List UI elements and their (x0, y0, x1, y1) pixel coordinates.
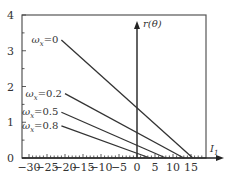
y-tick-label: 2 (7, 81, 14, 94)
chart: −30−25−20−15−10−5051015 01234 ωx=0ωx=0.2… (0, 0, 231, 181)
y-axis-arrow-icon (134, 21, 140, 29)
series-lines (61, 40, 192, 158)
series-labels: ωx=0ωx=0.2ωx=0.5ωx=0.8 (22, 34, 62, 134)
x-tick-label: 15 (184, 161, 198, 174)
y-axis-title: r(θ) (143, 18, 162, 29)
x-tick-label: 5 (152, 161, 159, 174)
x-tick-label: −5 (111, 161, 127, 174)
series-label: ωx=0.5 (22, 106, 58, 120)
y-tick-label: 1 (7, 116, 14, 129)
x-axis-title: I1 (209, 143, 218, 157)
x-tick-label: −10 (89, 161, 112, 174)
x-tick-label: 10 (166, 161, 180, 174)
series-label: ωx=0.8 (22, 120, 58, 134)
x-tick-label: 0 (134, 161, 141, 174)
y-tick-label: 4 (7, 9, 14, 22)
y-axis-ticks: 01234 (7, 9, 26, 165)
y-tick-label: 0 (7, 152, 14, 165)
axis-titles: r(θ)I1 (143, 18, 218, 157)
y-tick-label: 3 (7, 45, 14, 58)
series-label: ωx=0 (32, 34, 59, 48)
x-axis-ticks: −30−25−20−15−10−5051015 (17, 154, 201, 174)
series-label: ωx=0.2 (26, 88, 62, 102)
series-line (61, 40, 192, 158)
